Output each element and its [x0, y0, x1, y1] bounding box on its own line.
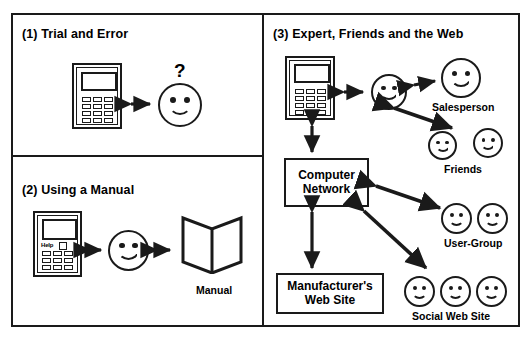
face-eye-left [482, 138, 486, 142]
calculator-key [295, 96, 304, 101]
calculator-keypad [42, 251, 73, 270]
calculator-key [295, 110, 304, 115]
calculator-key [42, 258, 51, 263]
face-eye-right [132, 243, 137, 248]
calculator-key [64, 265, 73, 270]
calculator-screen [81, 72, 117, 91]
calculator-key [317, 103, 326, 108]
calculator-key [42, 265, 51, 270]
face-eye-left [486, 213, 490, 217]
social-web-site-caption: Social Web Site [412, 310, 490, 322]
face-mouth [448, 290, 463, 298]
face-eye-right [465, 71, 470, 76]
face-eye-right [445, 141, 449, 145]
manufacturers-web-site-box: Manufacturer's Web Site [276, 273, 384, 314]
calculator-key [82, 118, 91, 123]
face-mouth [484, 290, 499, 298]
face-eye-left [381, 86, 386, 91]
friend-face-2 [473, 128, 503, 158]
panel-horizontal-divider [11, 155, 264, 157]
calculator-keypad [82, 97, 113, 123]
salesperson-face [441, 58, 481, 98]
face-eye-left [119, 243, 124, 248]
face-mouth [449, 217, 464, 225]
face-mouth [436, 145, 450, 153]
face-eye-right [458, 286, 462, 290]
calculator-keypad [295, 89, 326, 115]
calculator-key [82, 104, 91, 109]
calculator-key [306, 103, 315, 108]
question-mark-icon: ? [174, 61, 186, 80]
calculator-key [317, 89, 326, 94]
calculator-key [64, 258, 73, 263]
face-eye-left [413, 286, 417, 290]
panel-vertical-divider [262, 13, 264, 327]
face-eye-right [184, 97, 190, 103]
panel-2-title: (2) Using a Manual [22, 183, 134, 197]
calculator-key [295, 89, 304, 94]
face-mouth [412, 290, 427, 298]
face-eye-left [436, 141, 440, 145]
calculator-key [53, 258, 62, 263]
calculator-key [82, 97, 91, 102]
social-face-3 [476, 276, 507, 307]
calculator-key [295, 103, 304, 108]
calculator-key [317, 96, 326, 101]
user-face-panel3 [371, 74, 407, 110]
calculator-device-panel3 [285, 56, 335, 120]
face-eye-right [494, 286, 498, 290]
panel-1-title: (1) Trial and Error [22, 27, 128, 41]
computer-network-box: Computer Network [284, 158, 369, 207]
calculator-key [93, 97, 102, 102]
face-eye-right [459, 213, 463, 217]
face-eye-left [170, 97, 176, 103]
calculator-key [306, 110, 315, 115]
usergroup-face-1 [441, 203, 472, 234]
social-face-2 [440, 276, 471, 307]
calculator-key [93, 111, 102, 116]
face-eye-right [392, 86, 397, 91]
face-mouth [481, 142, 496, 150]
face-eye-right [422, 286, 426, 290]
face-eye-left [485, 286, 489, 290]
calculator-key [306, 96, 315, 101]
diagram-canvas: (1) Trial and Error (2) Using a Manual (… [0, 0, 531, 341]
face-mouth [451, 77, 471, 88]
salesperson-caption: Salesperson [432, 101, 494, 113]
face-mouth [169, 103, 191, 115]
face-eye-left [452, 71, 457, 76]
face-eye-right [491, 138, 495, 142]
help-button[interactable] [59, 242, 67, 250]
face-eye-right [495, 213, 499, 217]
calculator-key [104, 118, 113, 123]
social-face-1 [404, 276, 435, 307]
calculator-key [82, 111, 91, 116]
manual-book-icon [181, 212, 243, 274]
panel-3-title: (3) Expert, Friends and the Web [273, 27, 463, 41]
calculator-key [104, 97, 113, 102]
manual-caption: Manual [196, 284, 232, 296]
computer-network-label-line2: Network [303, 183, 350, 197]
face-mouth [118, 249, 139, 260]
user-face-panel1 [158, 83, 202, 127]
face-mouth [380, 91, 398, 101]
calculator-key [53, 251, 62, 256]
computer-network-label-line1: Computer [298, 169, 355, 183]
face-eye-left [450, 213, 454, 217]
friends-caption: Friends [444, 163, 482, 175]
manufacturer-label-line1: Manufacturer's [287, 280, 373, 294]
calculator-key [42, 251, 51, 256]
manufacturer-label-line2: Web Site [305, 294, 355, 308]
calculator-screen [42, 219, 77, 240]
calculator-screen [294, 64, 330, 83]
face-eye-left [449, 286, 453, 290]
calculator-key [104, 104, 113, 109]
calculator-device-panel2: Help [33, 211, 82, 277]
calculator-key [64, 251, 73, 256]
calculator-device-panel1 [72, 63, 122, 129]
calculator-key [306, 89, 315, 94]
calculator-key [104, 111, 113, 116]
calculator-key [93, 104, 102, 109]
friend-face-1 [428, 131, 457, 160]
calculator-key [93, 118, 102, 123]
